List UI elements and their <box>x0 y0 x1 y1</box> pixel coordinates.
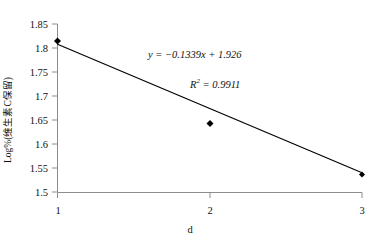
plot-canvas <box>0 0 380 246</box>
data-point-marker <box>54 37 61 44</box>
x-axis-ticks <box>58 193 363 199</box>
data-point-markers <box>54 37 365 177</box>
chart-figure: Log%(维生素C保留) 1.85 1.8 1.75 1.7 1.65 1.6 … <box>0 0 380 246</box>
data-point-marker <box>207 120 214 127</box>
trendline <box>58 44 363 173</box>
data-point-marker <box>359 172 365 178</box>
y-axis-ticks <box>52 24 58 192</box>
